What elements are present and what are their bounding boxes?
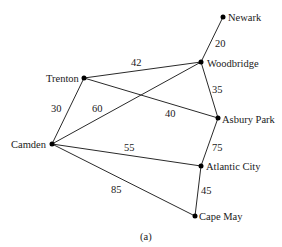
label-woodbridge: Woodbridge	[207, 58, 259, 69]
weight-camden-cape-may: 85	[111, 184, 122, 195]
weight-trenton-woodbridge: 42	[131, 57, 142, 68]
weighted-graph: 20 42 35 40 30 60 55 75 85 45 Newark Woo…	[0, 0, 282, 247]
label-atlantic-city: Atlantic City	[206, 161, 261, 172]
weight-atlantic-city-cape-may: 45	[201, 185, 212, 196]
edge-trenton-asbury-park	[84, 78, 218, 118]
node-camden	[50, 142, 55, 147]
weight-camden-woodbridge: 60	[92, 103, 103, 114]
weight-camden-atlantic-city: 55	[124, 142, 135, 153]
label-asbury-park: Asbury Park	[222, 114, 276, 125]
label-newark: Newark	[228, 12, 262, 23]
weight-trenton-camden: 30	[51, 103, 62, 114]
weight-asbury-park-atlantic-city: 75	[212, 142, 223, 153]
label-cape-may: Cape May	[199, 211, 243, 222]
weight-newark-woodbridge: 20	[215, 38, 226, 49]
label-camden: Camden	[11, 139, 47, 150]
node-trenton	[82, 76, 87, 81]
node-cape-may	[193, 214, 198, 219]
edge-trenton-woodbridge	[84, 62, 201, 78]
weight-trenton-asbury-park: 40	[165, 108, 176, 119]
node-atlantic-city	[199, 164, 204, 169]
figure-caption: (a)	[140, 231, 152, 243]
node-newark	[221, 15, 226, 20]
node-woodbridge	[199, 60, 204, 65]
weight-woodbridge-asbury-park: 35	[212, 84, 223, 95]
label-trenton: Trenton	[46, 73, 80, 84]
node-asbury-park	[216, 116, 221, 121]
